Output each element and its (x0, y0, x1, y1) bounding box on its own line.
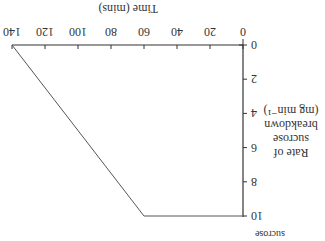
x-tick-label: 120 (36, 25, 54, 39)
x-tick-label: 40 (171, 25, 183, 39)
x-tick-label: 100 (69, 25, 87, 39)
y-label-line: breakdown (264, 118, 317, 132)
y-label-line: (mg min⁻¹) (264, 104, 319, 118)
x-tick-label: 140 (3, 25, 21, 39)
data-line (12, 45, 243, 216)
chart-stage: 020406080100120140 0246810 Time (mins) R… (0, 0, 325, 241)
x-tick-label: 60 (138, 25, 150, 39)
y-tick-label: 8 (251, 175, 257, 189)
y-tick-label: 2 (251, 72, 257, 86)
x-tick-label: 80 (105, 25, 117, 39)
y-tick-label: 0 (251, 38, 257, 52)
x-tick-label: 0 (240, 25, 246, 39)
line-chart: 020406080100120140 0246810 Time (mins) R… (0, 0, 325, 241)
y-tick-label: 6 (251, 141, 257, 155)
y-label-line: sucrose (273, 132, 309, 146)
x-axis-label: Time (mins) (98, 2, 157, 16)
x-tick-label: 20 (204, 25, 216, 39)
y-tick-label: 10 (251, 209, 263, 223)
y-axis-label: Rate ofsucrosebreakdown(mg min⁻¹) (264, 104, 319, 160)
y-label-line: Rate of (274, 146, 309, 160)
clipped-label: sucrose (254, 229, 285, 240)
y-tick-label: 4 (251, 106, 257, 120)
